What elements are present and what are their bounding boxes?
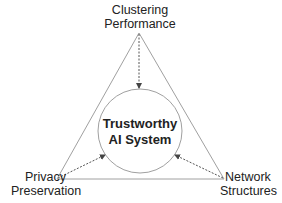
- node-privacy-preservation: Privacy Preservation: [8, 170, 74, 198]
- arrow-right-to-center: [175, 155, 223, 178]
- center-line2: AI System: [100, 132, 180, 148]
- node-clustering-performance: Clustering Performance: [99, 3, 181, 31]
- node-right-line1: Network: [218, 170, 280, 184]
- node-left-line1: Privacy: [8, 170, 74, 184]
- node-network-structures: Network Structures: [218, 170, 280, 198]
- center-trustworthy-ai-system: Trustworthy AI System: [100, 116, 180, 148]
- node-top-line1: Clustering: [99, 3, 181, 17]
- node-top-line2: Performance: [99, 17, 181, 31]
- node-left-line2: Preservation: [11, 184, 74, 198]
- center-line1: Trustworthy: [100, 116, 180, 132]
- node-right-line2: Structures: [218, 184, 280, 198]
